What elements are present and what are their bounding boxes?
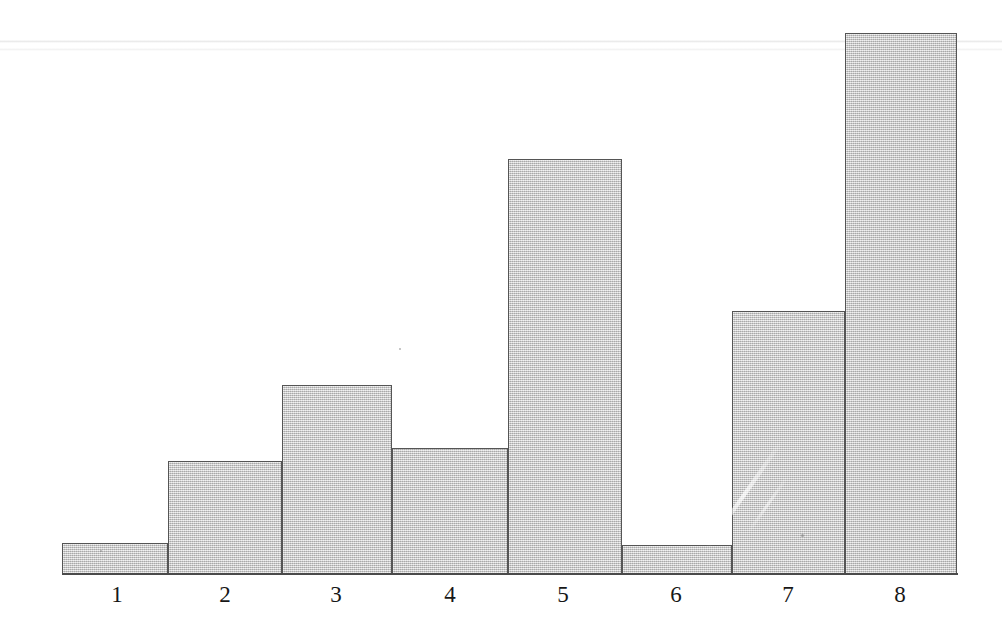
x-tick-label-7: 7	[758, 582, 818, 608]
x-tick-label-6: 6	[646, 582, 706, 608]
histogram-figure: 1 2 3 4 5 6 7 8	[0, 0, 1002, 632]
x-axis-line	[62, 573, 958, 575]
x-tick-label-1: 1	[87, 582, 147, 608]
x-tick-label-5: 5	[533, 582, 593, 608]
bar-2[interactable]	[168, 461, 282, 574]
bar-4[interactable]	[392, 448, 508, 574]
speck-artifact	[399, 348, 401, 350]
x-tick-label-4: 4	[420, 582, 480, 608]
bar-5[interactable]	[508, 159, 622, 574]
plot-area: 1 2 3 4 5 6 7 8	[0, 0, 1002, 632]
x-tick-label-2: 2	[195, 582, 255, 608]
bar-6[interactable]	[622, 545, 732, 574]
bar-1[interactable]	[62, 543, 168, 574]
x-tick-label-3: 3	[306, 582, 366, 608]
bar-7[interactable]	[732, 311, 845, 574]
bar-3[interactable]	[282, 385, 392, 574]
x-tick-label-8: 8	[870, 582, 930, 608]
bar-8[interactable]	[845, 33, 957, 574]
